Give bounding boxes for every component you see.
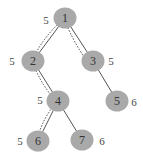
traversal-dotted-path — [32, 19, 90, 141]
tree-node-4: 45 — [37, 91, 69, 112]
node-label: 7 — [79, 133, 85, 147]
tree-node-1: 15 — [43, 8, 76, 29]
node-label: 3 — [90, 54, 96, 68]
tree-node-7: 76 — [71, 130, 106, 151]
node-side-value: 6 — [99, 135, 105, 147]
edges-group — [33, 18, 117, 141]
tree-node-2: 25 — [9, 51, 44, 72]
node-side-value: 5 — [37, 94, 43, 106]
node-side-value: 5 — [9, 55, 15, 67]
node-side-value: 5 — [43, 14, 49, 26]
node-side-value: 6 — [131, 96, 137, 108]
node-label: 6 — [35, 134, 41, 148]
node-side-value: 5 — [17, 135, 23, 147]
node-side-value: 5 — [108, 55, 114, 67]
tree-svg: 15253545566576 — [0, 0, 143, 159]
node-label: 2 — [30, 54, 36, 68]
node-label: 1 — [62, 11, 68, 25]
dotted-path-group — [32, 19, 90, 141]
node-label: 4 — [55, 94, 61, 108]
tree-node-5: 56 — [106, 91, 138, 112]
node-label: 5 — [114, 94, 120, 108]
nodes-group: 15253545566576 — [9, 8, 137, 152]
tree-node-3: 35 — [82, 51, 115, 72]
tree-node-6: 65 — [17, 131, 49, 152]
tree-diagram: 15253545566576 — [0, 0, 143, 159]
